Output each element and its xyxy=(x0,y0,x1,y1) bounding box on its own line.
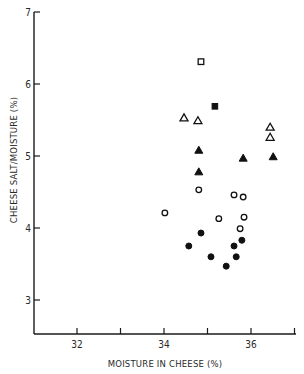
open-circle-point xyxy=(196,187,202,193)
scatter-chart: 34567 323436 CHEESE SALT/MOISTURE (%) MO… xyxy=(0,0,304,374)
open-triangle-point xyxy=(266,123,274,130)
filled-triangle-point xyxy=(195,168,203,175)
filled-circle-point xyxy=(223,263,229,269)
filled-triangle-point xyxy=(239,154,247,161)
filled-circle-point xyxy=(208,254,214,260)
filled-triangle-point xyxy=(269,153,277,160)
y-axis-ticks: 34567 xyxy=(25,7,40,306)
open-circle-point xyxy=(240,194,246,200)
x-axis-label: MOISTURE IN CHEESE (%) xyxy=(108,359,223,369)
open-circle-point xyxy=(241,214,247,220)
filled-circle-point xyxy=(198,230,204,236)
y-tick-label: 5 xyxy=(25,151,31,162)
open-circle-point xyxy=(231,192,237,198)
x-tick-label: 34 xyxy=(158,339,170,350)
x-tick-label: 32 xyxy=(71,339,82,350)
x-axis-ticks: 323436 xyxy=(71,328,294,350)
open-triangle-point xyxy=(194,117,202,124)
filled-circle-point xyxy=(233,254,239,260)
open-triangle-point xyxy=(266,133,274,140)
x-tick-label: 36 xyxy=(245,339,257,350)
filled-circle-point xyxy=(231,243,237,249)
y-tick-label: 7 xyxy=(25,7,31,18)
filled-circle-point xyxy=(186,243,192,249)
open-circle-point xyxy=(216,216,222,222)
y-tick-label: 4 xyxy=(25,223,31,234)
y-axis-label: CHEESE SALT/MOISTURE (%) xyxy=(9,97,19,223)
open-square-point xyxy=(198,59,204,65)
axes xyxy=(34,12,296,334)
open-circle-point xyxy=(162,210,168,216)
filled-circle-point xyxy=(239,237,245,243)
open-triangle-point xyxy=(180,114,188,121)
filled-square-point xyxy=(212,104,218,110)
y-tick-label: 3 xyxy=(25,295,31,306)
open-circle-point xyxy=(237,226,243,232)
filled-triangle-point xyxy=(195,146,203,153)
y-tick-label: 6 xyxy=(25,79,31,90)
data-points xyxy=(162,59,277,269)
